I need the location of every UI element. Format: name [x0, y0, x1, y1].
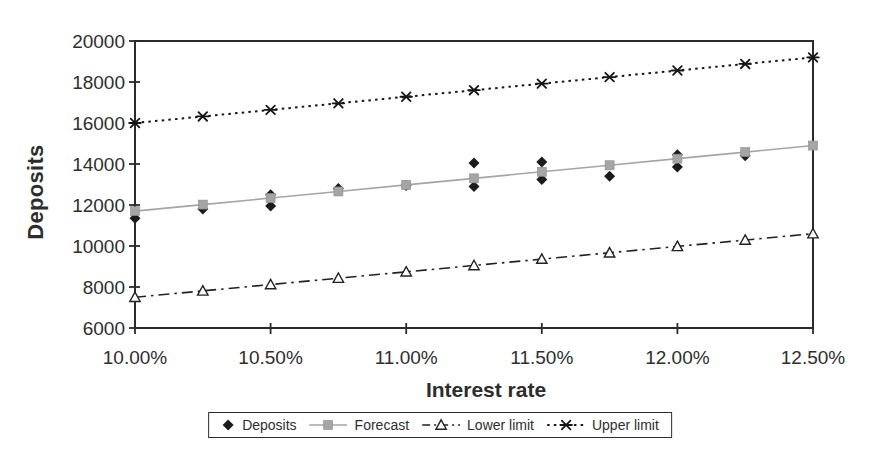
y-tick-label: 14000	[72, 154, 125, 175]
chart-figure: 6000800010000120001400016000180002000010…	[0, 0, 880, 470]
diamond-marker-icon	[604, 171, 615, 182]
legend-square-sample-icon	[310, 418, 348, 432]
y-axis-title: Deposits	[23, 144, 49, 239]
x-tick-label: 10.50%	[238, 347, 303, 368]
triangle-marker-icon	[469, 260, 479, 269]
legend: DepositsForecastLower limitUpper limit	[208, 412, 672, 438]
star-marker-icon	[604, 73, 616, 82]
legend-diamond-sample-icon	[221, 418, 235, 432]
legend-triangle-open-sample-icon	[422, 418, 460, 432]
star-marker-icon	[739, 60, 751, 69]
legend-item-deposits: Deposits	[221, 417, 296, 433]
star-marker-icon	[468, 86, 480, 95]
legend-label-lower-limit: Lower limit	[467, 417, 534, 433]
star-marker-icon	[265, 106, 277, 115]
star-marker-icon	[197, 112, 209, 121]
star-marker-icon	[333, 99, 345, 108]
x-tick-label: 12.00%	[645, 347, 710, 368]
legend-label-upper-limit: Upper limit	[592, 417, 659, 433]
triangle-marker-icon	[808, 229, 818, 238]
diamond-marker-icon	[223, 420, 234, 431]
legend-item-upper-limit: Upper limit	[547, 417, 659, 433]
square-marker-icon	[741, 148, 750, 157]
legend-label-forecast: Forecast	[355, 417, 409, 433]
y-tick-label: 6000	[83, 318, 125, 339]
y-tick-label: 8000	[83, 277, 125, 298]
square-marker-icon	[334, 187, 343, 196]
square-marker-icon	[673, 154, 682, 163]
legend-star-sample-icon	[547, 418, 585, 432]
star-marker-icon	[560, 421, 572, 430]
y-tick-label: 12000	[72, 195, 125, 216]
series-markers-lower-limit	[130, 229, 818, 302]
y-tick-label: 16000	[72, 113, 125, 134]
x-axis-title: Interest rate	[426, 378, 546, 402]
x-tick-label: 11.50%	[510, 347, 573, 368]
square-marker-icon	[266, 194, 275, 203]
square-marker-icon	[809, 141, 818, 150]
square-marker-icon	[402, 180, 411, 189]
y-tick-label: 18000	[72, 72, 125, 93]
square-marker-icon	[198, 200, 207, 209]
star-marker-icon	[672, 66, 684, 75]
x-tick-label: 12.50%	[781, 347, 846, 368]
x-tick-label: 11.00%	[375, 347, 438, 368]
legend-label-deposits: Deposits	[242, 417, 296, 433]
legend-item-lower-limit: Lower limit	[422, 417, 534, 433]
square-marker-icon	[324, 421, 333, 430]
square-marker-icon	[131, 207, 140, 216]
y-tick-label: 20000	[72, 31, 125, 52]
x-tick-label: 10.00%	[103, 347, 168, 368]
star-marker-icon	[400, 92, 412, 101]
legend-item-forecast: Forecast	[310, 417, 409, 433]
triangle-marker-icon	[537, 254, 547, 263]
diamond-marker-icon	[469, 157, 480, 168]
square-marker-icon	[470, 174, 479, 183]
square-marker-icon	[605, 161, 614, 170]
triangle-marker-icon	[265, 279, 275, 288]
y-tick-label: 10000	[72, 236, 125, 257]
diamond-marker-icon	[536, 156, 547, 167]
series-markers-forecast	[131, 141, 818, 216]
square-marker-icon	[537, 167, 546, 176]
triangle-marker-icon	[333, 273, 343, 282]
star-marker-icon	[536, 79, 548, 88]
series-markers-upper-limit	[129, 53, 819, 127]
